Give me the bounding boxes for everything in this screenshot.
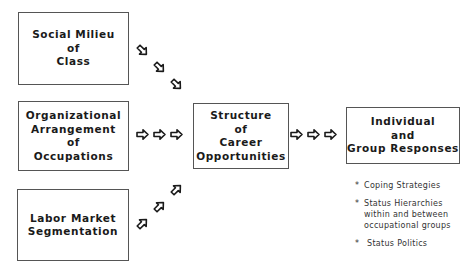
bullet-icon: *: [355, 198, 359, 209]
box-label-line: Individual: [371, 115, 436, 129]
arrow-right-icon: [153, 129, 166, 140]
note-text: Coping Strategies: [364, 180, 451, 191]
note-item-status-hierarchies: * Status Hierarchies within and between …: [355, 198, 451, 231]
box-labor-market-segmentation: Labor Market Segmentation: [17, 189, 129, 261]
bullet-icon: *: [355, 180, 359, 191]
arrow-up-right-icon: [168, 181, 185, 198]
box-social-milieu-of-class: Social Milieu of Class: [18, 12, 129, 85]
box-label-line: Social Milieu: [32, 28, 115, 42]
note-item-coping-strategies: * Coping Strategies: [355, 180, 451, 191]
arrow-right-icon: [324, 129, 337, 140]
box-structure-of-career-opportunities: Structure of Career Opportunities: [193, 103, 289, 169]
arrow-up-right-icon: [151, 198, 168, 215]
box-label-line: Labor Market: [30, 212, 116, 226]
note-item-status-politics: * Status Politics: [355, 238, 451, 249]
note-text: Status Hierarchies: [364, 198, 451, 209]
note-text: within and between: [364, 209, 451, 220]
box-label-line: Organizational: [26, 109, 121, 123]
box-label-line: Occupations: [34, 150, 114, 164]
box-label-line: Group Responses: [347, 142, 459, 156]
note-text: Status Politics: [367, 238, 451, 249]
arrow-up-right-icon: [134, 215, 151, 232]
box-label-line: Segmentation: [28, 225, 118, 239]
arrow-down-right-icon: [151, 59, 168, 76]
box-label-line: and: [391, 129, 415, 143]
arrow-down-right-icon: [168, 76, 185, 93]
box-label-line: Opportunities: [196, 150, 286, 164]
box-label-line: Structure: [210, 109, 272, 123]
box-organizational-arrangement: Organizational Arrangement of Occupation…: [18, 101, 129, 171]
arrow-right-icon: [136, 129, 149, 140]
box-label-line: Arrangement: [31, 123, 116, 137]
arrow-right-icon: [290, 129, 303, 140]
arrow-right-icon: [170, 129, 183, 140]
box-label-line: of: [67, 42, 80, 56]
arrow-right-icon: [307, 129, 320, 140]
bullet-icon: *: [355, 238, 359, 249]
box-label-line: Career: [220, 136, 263, 150]
box-label-line: of: [67, 136, 80, 150]
note-text: occupational groups: [364, 220, 451, 231]
response-notes-list: * Coping Strategies * Status Hierarchies…: [355, 180, 451, 256]
box-label-line: of: [235, 123, 248, 137]
box-individual-and-group-responses: Individual and Group Responses: [346, 107, 460, 164]
box-label-line: Class: [57, 55, 91, 69]
arrow-down-right-icon: [134, 42, 151, 59]
